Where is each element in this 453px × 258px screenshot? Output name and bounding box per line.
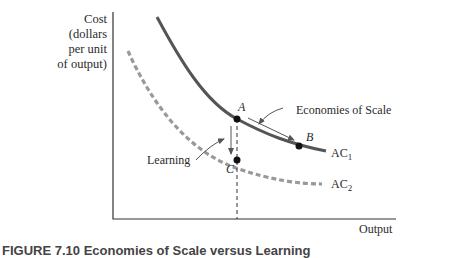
point-a (234, 116, 241, 123)
economies-label: Economies of Scale (296, 103, 391, 117)
figure-caption: FIGURE 7.10 Economies of Scale versus Le… (2, 243, 311, 258)
ac1-label: AC1 (331, 146, 352, 162)
x-axis-label: Output (359, 222, 393, 236)
ac1-curve (157, 17, 326, 151)
point-c (234, 157, 241, 164)
economies-pointer (259, 108, 283, 124)
point-b (296, 143, 303, 150)
learning-label: Learning (147, 153, 190, 167)
ac2-label: AC2 (331, 177, 352, 193)
label-b: B (306, 130, 314, 144)
label-a: A (237, 100, 246, 114)
label-c: C (226, 162, 235, 176)
